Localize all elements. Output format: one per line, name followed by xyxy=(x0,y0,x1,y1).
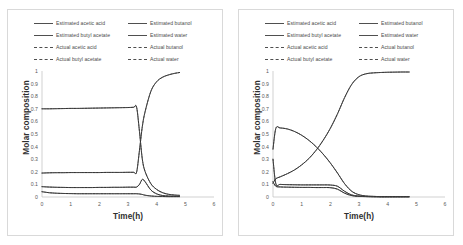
legend-line-icon xyxy=(34,35,53,36)
y-tick-label: 0.8 xyxy=(24,93,38,99)
legend-line-icon xyxy=(265,23,284,24)
y-tick-label: 0.4 xyxy=(24,144,38,150)
axis-lines xyxy=(42,71,214,197)
curves-left xyxy=(42,73,180,197)
y-tick-label: 0 xyxy=(24,194,38,200)
y-tick-label: 0.2 xyxy=(24,169,38,175)
plot-svg-right xyxy=(273,71,445,197)
legend-label: Actual butyl acetate xyxy=(56,56,101,62)
legend-item-estimated-acetic-acid: Estimated acetic acid xyxy=(265,17,355,29)
legend-item-actual-butyl-acetate: Actual butyl acetate xyxy=(265,53,355,65)
legend-dashed-line-icon xyxy=(265,47,284,48)
x-axis-label: Time(h) xyxy=(273,212,445,221)
series-line xyxy=(42,105,180,195)
legend-item-actual-acetic-acid: Actual acetic acid xyxy=(34,41,124,53)
legend-label: Estimated butyl acetate xyxy=(56,32,110,38)
curves-right xyxy=(273,72,409,197)
series-line xyxy=(273,72,409,183)
series-line xyxy=(273,182,409,197)
plot-canvas-right xyxy=(273,71,445,197)
figure-two-panel-composition-profiles: Estimated acetic acid Estimated butanol … xyxy=(0,0,463,245)
series-line xyxy=(273,127,409,197)
legend-dashed-line-icon xyxy=(265,59,284,60)
legend-line-icon xyxy=(128,35,147,36)
plot-canvas-left xyxy=(42,71,214,197)
legend-label: Estimated butyl acetate xyxy=(287,32,341,38)
legend-label: Actual acetic acid xyxy=(287,44,328,50)
series-line xyxy=(273,127,409,197)
plot-area-right: Molar composition 00.10.20.30.40.50.60.7… xyxy=(239,65,453,236)
legend-item-estimated-butyl-acetate: Estimated butyl acetate xyxy=(34,29,124,41)
legend-label: Actual butyl acetate xyxy=(287,56,332,62)
plot-svg-left xyxy=(42,71,214,197)
x-tick-label: 6 xyxy=(444,201,447,207)
legend-item-estimated-water: Estimated water xyxy=(359,29,449,41)
series-line xyxy=(42,105,180,195)
legend-item-actual-butanol: Actual butanol xyxy=(359,41,449,53)
series-line xyxy=(42,192,180,197)
y-tick-label: 0.7 xyxy=(255,106,269,112)
y-tick-label: 0.8 xyxy=(255,93,269,99)
y-tick-label: 0.5 xyxy=(255,131,269,137)
y-tick-label: 0.9 xyxy=(24,81,38,87)
y-tick-label: 0.3 xyxy=(255,156,269,162)
legend-line-icon xyxy=(34,23,53,24)
legend-item-actual-water: Actual water xyxy=(128,53,218,65)
legend-item-estimated-water: Estimated water xyxy=(128,29,218,41)
legend-dashed-line-icon xyxy=(34,59,53,60)
x-axis-label: Time(h) xyxy=(42,212,214,221)
legend-line-icon xyxy=(359,23,378,24)
x-tick-label: 2 xyxy=(98,201,101,207)
y-tick-label: 0.3 xyxy=(24,156,38,162)
legend-item-actual-acetic-acid: Actual acetic acid xyxy=(265,41,355,53)
legend-label: Actual water xyxy=(150,56,179,62)
legend-item-estimated-butanol: Estimated butanol xyxy=(128,17,218,29)
legend-item-estimated-butanol: Estimated butanol xyxy=(359,17,449,29)
legend-line-icon xyxy=(359,35,378,36)
legend-label: Actual water xyxy=(381,56,410,62)
x-axis-ticks: 0123456 xyxy=(42,201,214,211)
x-tick-label: 1 xyxy=(300,201,303,207)
x-tick-label: 3 xyxy=(358,201,361,207)
legend-dashed-line-icon xyxy=(359,47,378,48)
legend-right: Estimated acetic acid Estimated butanol … xyxy=(265,17,449,65)
x-tick-label: 0 xyxy=(41,201,44,207)
x-tick-label: 5 xyxy=(184,201,187,207)
y-tick-label: 0.1 xyxy=(24,181,38,187)
y-tick-label: 0 xyxy=(255,194,269,200)
y-tick-label: 0.5 xyxy=(24,131,38,137)
legend-left: Estimated acetic acid Estimated butanol … xyxy=(34,17,218,65)
series-line xyxy=(273,72,409,183)
legend-item-actual-butyl-acetate: Actual butyl acetate xyxy=(34,53,124,65)
legend-dashed-line-icon xyxy=(128,59,147,60)
legend-dashed-line-icon xyxy=(34,47,53,48)
series-line xyxy=(273,182,409,197)
legend-label: Estimated acetic acid xyxy=(287,20,336,26)
legend-label: Estimated acetic acid xyxy=(56,20,105,26)
legend-item-actual-butanol: Actual butanol xyxy=(128,41,218,53)
legend-line-icon xyxy=(128,23,147,24)
y-tick-label: 0.1 xyxy=(255,181,269,187)
y-axis-ticks: 00.10.20.30.40.50.60.70.80.91 xyxy=(24,71,38,197)
y-axis-ticks: 00.10.20.30.40.50.60.70.80.91 xyxy=(255,71,269,197)
legend-dashed-line-icon xyxy=(359,59,378,60)
x-tick-label: 0 xyxy=(272,201,275,207)
legend-item-actual-water: Actual water xyxy=(359,53,449,65)
x-tick-label: 4 xyxy=(386,201,389,207)
y-tick-label: 1 xyxy=(24,68,38,74)
y-tick-label: 0.4 xyxy=(255,144,269,150)
legend-label: Estimated water xyxy=(381,32,418,38)
y-tick-label: 1 xyxy=(255,68,269,74)
x-tick-label: 1 xyxy=(69,201,72,207)
legend-label: Estimated water xyxy=(150,32,187,38)
legend-line-icon xyxy=(265,35,284,36)
x-axis-ticks: 0123456 xyxy=(273,201,445,211)
legend-label: Actual acetic acid xyxy=(56,44,97,50)
series-line xyxy=(42,73,180,174)
x-tick-label: 3 xyxy=(127,201,130,207)
chart-panel-left: Estimated acetic acid Estimated butanol … xyxy=(0,0,231,245)
legend-dashed-line-icon xyxy=(128,47,147,48)
legend-label: Actual butanol xyxy=(381,44,414,50)
y-tick-label: 0.9 xyxy=(255,81,269,87)
x-tick-label: 4 xyxy=(155,201,158,207)
